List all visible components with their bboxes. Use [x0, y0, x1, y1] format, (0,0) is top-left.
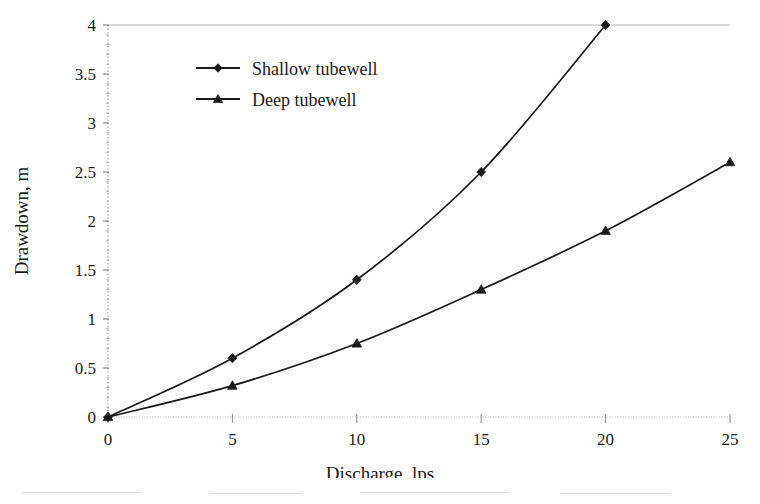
x-axis-tick-label: 15 [473, 430, 490, 449]
y-axis-tick-label: 0 [88, 408, 97, 427]
y-axis-tick-label: 1.5 [75, 261, 96, 280]
x-axis-tick-label: 5 [228, 430, 237, 449]
x-axis-tick-label: 0 [104, 430, 113, 449]
y-axis-tick-label: 2 [88, 212, 97, 231]
y-axis-tick-label: 3.5 [75, 65, 96, 84]
legend-item-label: Shallow tubewell [252, 59, 377, 79]
x-axis-tick-label: 10 [348, 430, 365, 449]
y-axis-tick-label: 3 [88, 114, 97, 133]
scan-speck [22, 492, 142, 493]
figure-background [0, 0, 760, 504]
y-axis-title: Drawdown, m [11, 166, 32, 275]
scan-speck [210, 493, 300, 494]
scan-speck [360, 492, 510, 493]
scan-artifact-band [0, 478, 760, 504]
y-axis-tick-label: 2.5 [75, 163, 96, 182]
legend-item-label: Deep tubewell [252, 90, 356, 110]
y-axis-tick-label: 4 [88, 16, 97, 35]
line-chart-canvas: 00.511.522.533.54 0510152025 Shallow tub… [0, 0, 760, 504]
chart-figure: 00.511.522.533.54 0510152025 Shallow tub… [0, 0, 760, 504]
x-axis-tick-label: 25 [722, 430, 739, 449]
x-axis-tick-label: 20 [597, 430, 614, 449]
scan-speck [560, 493, 670, 494]
y-axis-tick-label: 1 [88, 310, 97, 329]
y-axis-tick-label: 0.5 [75, 359, 96, 378]
